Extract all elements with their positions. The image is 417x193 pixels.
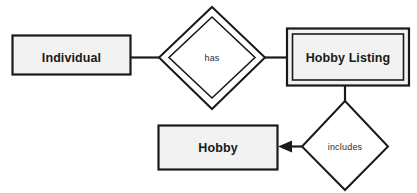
arrow-head-icon — [278, 141, 292, 153]
entity-individual-label: Individual — [42, 51, 101, 65]
relationship-has[interactable]: has — [159, 7, 265, 109]
relationship-includes[interactable]: includes — [302, 101, 388, 190]
entity-hobby-listing[interactable]: Hobby Listing — [287, 29, 409, 86]
entity-hobby-listing-label: Hobby Listing — [306, 51, 391, 65]
er-diagram-canvas: Individual has Hobby Listing includes Ho… — [0, 0, 417, 193]
entity-hobby[interactable]: Hobby — [159, 126, 278, 170]
relationship-has-label: has — [204, 53, 219, 63]
relationship-includes-label: includes — [328, 142, 363, 152]
entity-individual[interactable]: Individual — [13, 36, 131, 75]
entity-hobby-label: Hobby — [198, 141, 237, 155]
connector-includes-to-hobby — [278, 141, 302, 153]
